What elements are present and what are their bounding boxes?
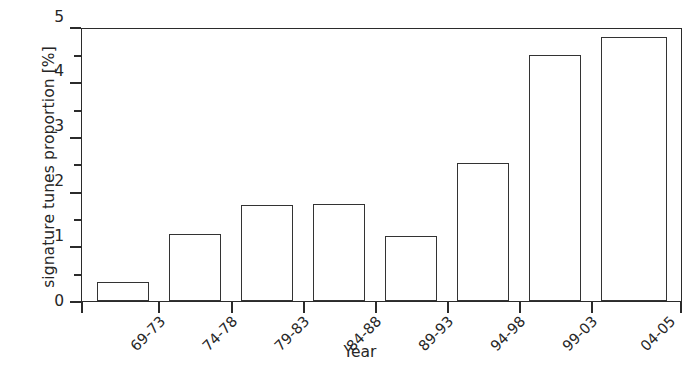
y-tick-minor-4_5 [74,55,81,57]
y-tick-label-2: 2 [38,174,64,190]
y-tick-major-5 [70,27,81,29]
bar-69-73 [97,282,149,301]
y-tick-minor-2_5 [74,164,81,166]
y-tick-label-3: 3 [38,119,64,135]
x-tick-0 [81,302,83,313]
y-tick-major-4 [70,82,81,84]
y-tick-minor-0_5 [74,274,81,276]
bar-04-05 [601,37,667,301]
y-tick-minor-3_5 [74,110,81,112]
bar-79-83 [241,205,293,301]
x-tick-label-04-05: 04-05 [637,313,678,354]
bar-74-78 [169,234,221,301]
y-tick-label-5: 5 [38,10,64,26]
bar-89-93 [385,236,437,302]
x-tick-label-94-98: 94-98 [487,313,528,354]
y-tick-major-1 [70,246,81,248]
x-tick-3 [303,302,305,313]
y-tick-minor-1_5 [74,219,81,221]
x-tick-label-99-03: 99-03 [559,313,600,354]
x-tick-label-69-73: 69-73 [127,313,168,354]
x-tick-2 [231,302,233,313]
bar-99-03 [529,55,581,301]
bar-94-98 [457,163,509,301]
y-tick-label-4: 4 [38,64,64,80]
x-tick-6 [519,302,521,313]
y-tick-label-1: 1 [38,229,64,245]
x-axis-title: Year [305,343,415,361]
x-tick-1 [158,302,160,313]
x-tick-4 [375,302,377,313]
bar-84-88 [313,204,365,301]
y-tick-label-0: 0 [38,294,64,310]
bar-chart-figure: signature tunes proportion [%] 5 4 3 2 1… [0,0,696,380]
y-tick-major-2 [70,192,81,194]
x-tick-8 [680,302,682,313]
x-tick-label-74-78: 74-78 [199,313,240,354]
x-tick-7 [591,302,593,313]
x-tick-5 [447,302,449,313]
y-axis-tick-labels: 5 4 3 2 1 0 [36,0,64,380]
y-tick-major-3 [70,137,81,139]
y-tick-major-0 [70,301,81,303]
x-tick-label-89-93: 89-93 [415,313,456,354]
